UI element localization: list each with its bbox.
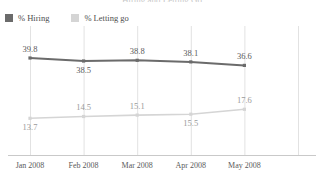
data-point-marker[interactable] [243, 64, 246, 67]
data-label: 17.6 [237, 96, 252, 105]
line-chart: Hiring and Letting Go % Hiring % Letting… [0, 0, 324, 182]
data-point-marker[interactable] [28, 56, 31, 59]
plot-area: 39.838.538.838.136.613.714.515.115.517.6 [0, 26, 324, 156]
legend-swatch-icon-hiring [5, 14, 13, 22]
data-point-marker[interactable] [82, 59, 85, 62]
chart-legend: % Hiring % Letting go [5, 12, 151, 24]
data-label: 36.6 [237, 52, 252, 61]
legend-swatch-icon-letting-go [71, 14, 79, 22]
data-point-marker[interactable] [136, 114, 139, 117]
legend-item-hiring[interactable]: % Hiring [5, 14, 49, 23]
data-point-marker[interactable] [243, 108, 246, 111]
data-label: 14.5 [76, 103, 91, 112]
data-label: 15.5 [183, 119, 198, 128]
data-point-marker[interactable] [28, 117, 31, 120]
data-label: 15.1 [130, 102, 145, 111]
data-label: 38.5 [76, 66, 91, 75]
plot-svg [0, 26, 324, 156]
x-axis-labels: Jan 2008Feb 2008Mar 2008Apr 2008May 2008 [0, 160, 324, 174]
x-axis-tick-label: May 2008 [228, 162, 261, 170]
legend-label-letting-go: % Letting go [84, 14, 128, 23]
data-point-marker[interactable] [189, 60, 192, 63]
x-axis-tick-label: Apr 2008 [176, 162, 206, 170]
data-point-marker[interactable] [189, 113, 192, 116]
data-label: 38.1 [183, 49, 198, 58]
legend-item-letting-go[interactable]: % Letting go [71, 14, 128, 23]
data-label: 39.8 [23, 45, 38, 54]
data-label: 38.8 [130, 47, 145, 56]
x-axis-tick-label: Feb 2008 [69, 162, 99, 170]
data-point-marker[interactable] [82, 115, 85, 118]
legend-label-hiring: % Hiring [18, 14, 49, 23]
x-axis-tick-label: Mar 2008 [122, 162, 153, 170]
gridlines [31, 26, 299, 156]
clipped-chart-title: Hiring and Letting Go [0, 0, 324, 2]
data-point-marker[interactable] [136, 59, 139, 62]
data-label: 13.7 [23, 123, 38, 132]
x-axis-tick-label: Jan 2008 [16, 162, 45, 170]
